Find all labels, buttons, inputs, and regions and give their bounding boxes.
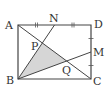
geometry-diagram: A N D P M Q B C bbox=[0, 0, 109, 93]
label-a: A bbox=[4, 19, 14, 32]
label-c: C bbox=[93, 75, 101, 88]
label-b: B bbox=[6, 74, 14, 87]
shaded-triangle-bpq bbox=[18, 43, 67, 79]
label-q: Q bbox=[62, 64, 71, 77]
label-p: P bbox=[31, 40, 39, 53]
label-d: D bbox=[94, 18, 103, 31]
label-n: N bbox=[49, 12, 59, 25]
label-m: M bbox=[93, 46, 104, 59]
